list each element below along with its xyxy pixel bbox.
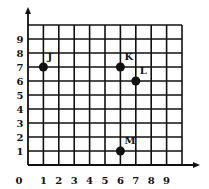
point-m: M [116, 135, 136, 156]
x-tick-label: 2 [55, 175, 62, 186]
y-tick-label: 9 [17, 34, 24, 45]
x-tick-label: 4 [86, 175, 93, 186]
axes [25, 7, 200, 168]
x-tick-label: 9 [163, 175, 170, 186]
point-label: M [124, 135, 135, 146]
coordinate-grid: 0123456789 123456789 JKLM [0, 0, 209, 189]
y-tick-label: 3 [17, 118, 24, 129]
point-j: J [39, 51, 53, 72]
x-tick-label: 7 [132, 175, 139, 186]
y-tick-label: 6 [17, 76, 24, 87]
y-tick-label: 7 [17, 62, 24, 73]
x-tick-label: 5 [102, 175, 109, 186]
x-tick-labels: 0123456789 [16, 175, 171, 186]
point-marker-icon [116, 147, 125, 156]
point-marker-icon [116, 63, 125, 72]
y-tick-label: 8 [17, 48, 24, 59]
x-tick-label: 0 [16, 175, 23, 186]
y-tick-label: 4 [17, 104, 24, 115]
point-marker-icon [39, 63, 48, 72]
x-tick-label: 3 [71, 175, 78, 186]
point-label: L [140, 65, 147, 76]
x-axis-arrow-icon [193, 162, 200, 168]
point-label: K [124, 51, 133, 62]
point-label: J [46, 51, 52, 62]
y-tick-label: 5 [17, 90, 24, 101]
y-tick-label: 1 [17, 146, 24, 157]
point-marker-icon [131, 77, 140, 86]
grid-lines [28, 25, 182, 165]
point-l: L [131, 65, 147, 86]
point-k: K [116, 51, 133, 72]
x-tick-label: 8 [148, 175, 155, 186]
y-axis-arrow-icon [25, 7, 31, 14]
x-tick-label: 6 [117, 175, 124, 186]
y-tick-labels: 123456789 [17, 34, 24, 157]
x-tick-label: 1 [40, 175, 47, 186]
y-tick-label: 2 [17, 132, 24, 143]
